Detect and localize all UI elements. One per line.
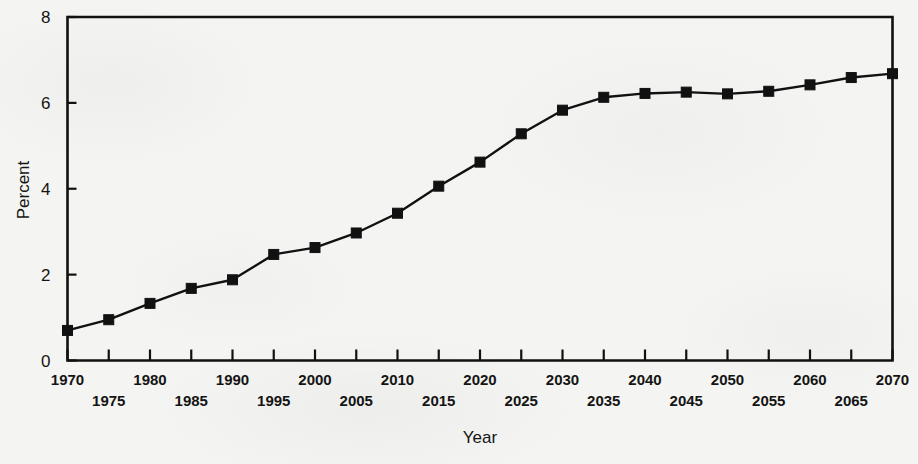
x-axis-tick-labels-lower-row: 1975198519952005201520252035204520552065 [92,392,868,409]
y-tick-label: 6 [41,94,50,113]
x-tick-label-lower: 2015 [422,392,455,409]
data-point-marker [228,275,238,285]
y-tick-label: 2 [41,266,50,285]
y-tick-label: 4 [41,180,50,199]
data-point-marker [846,73,856,83]
x-tick-label-upper: 2000 [298,371,331,388]
data-point-marker [269,249,279,259]
data-point-marker [434,181,444,191]
data-point-marker [681,87,691,97]
data-point-marker [145,298,155,308]
x-axis-tick-marks [68,350,893,361]
x-tick-label-lower: 2025 [505,392,538,409]
data-point-marker [310,243,320,253]
plot-axes-frame [68,17,893,361]
data-point-marker [764,86,774,96]
data-point-marker [351,228,361,238]
x-axis-tick-labels-upper-row: 1970198019902000201020202030204020502060… [51,371,909,388]
x-tick-label-lower: 2005 [340,392,373,409]
x-tick-label-upper: 2040 [628,371,661,388]
x-tick-label-lower: 2055 [752,392,785,409]
data-point-marker [805,80,815,90]
data-point-marker [640,88,650,98]
data-point-marker [723,89,733,99]
data-point-marker [104,315,114,325]
x-tick-label-upper: 2070 [876,371,909,388]
x-tick-label-upper: 1980 [133,371,166,388]
x-tick-label-upper: 2030 [546,371,579,388]
x-tick-label-lower: 2035 [587,392,620,409]
chart-figure: 02468 1970198019902000201020202030204020… [0,0,918,464]
x-tick-label-upper: 2060 [793,371,826,388]
y-tick-label: 0 [41,352,50,371]
x-tick-label-upper: 2050 [711,371,744,388]
percent-by-year-line-chart: 02468 1970198019902000201020202030204020… [0,0,918,464]
x-tick-label-upper: 2020 [463,371,496,388]
series-markers [63,69,898,336]
data-point-marker [186,283,196,293]
data-point-marker [475,157,485,167]
x-tick-label-upper: 1970 [51,371,84,388]
x-tick-label-lower: 1975 [92,392,125,409]
x-tick-label-lower: 1985 [175,392,208,409]
data-point-marker [516,129,526,139]
data-point-marker [599,92,609,102]
x-tick-label-lower: 2045 [670,392,703,409]
x-tick-label-lower: 1995 [257,392,290,409]
x-axis-title: Year [463,428,498,447]
x-tick-label-lower: 2065 [835,392,868,409]
data-point-marker [63,325,73,335]
data-point-marker [888,69,898,79]
y-axis-title: Percent [14,160,33,219]
y-axis-tick-labels: 02468 [41,8,50,371]
y-tick-label: 8 [41,8,50,27]
data-point-marker [558,105,568,115]
x-tick-label-upper: 1990 [216,371,249,388]
data-point-marker [393,208,403,218]
x-tick-label-upper: 2010 [381,371,414,388]
y-axis-tick-marks [68,17,77,361]
data-series-percent [63,69,898,336]
